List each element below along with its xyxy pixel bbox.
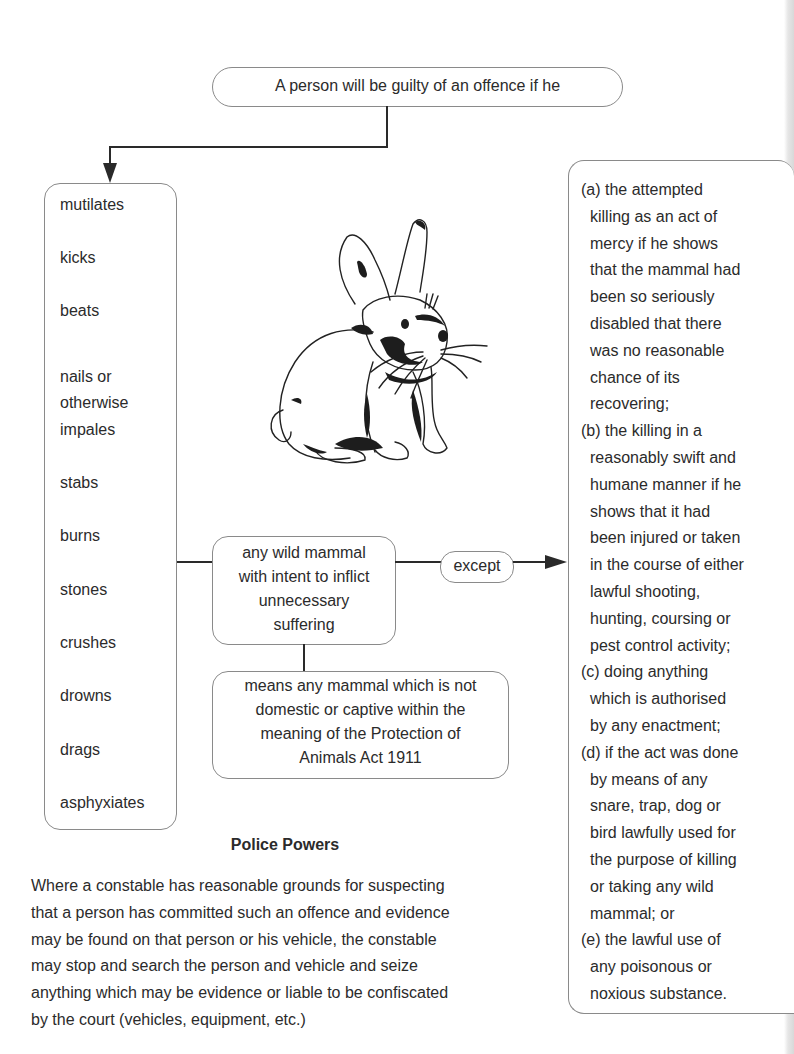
exception-line: (c) doing anything [581,659,793,686]
verb-item: mutilates [60,192,124,218]
verbs-list-box: mutilates kicks beats nails or otherwise… [44,183,177,830]
exception-line: hunting, coursing or [590,606,793,633]
definition-line: Animals Act 1911 [213,746,508,770]
definition-line: meaning of the Protection of [213,722,508,746]
connector-verbs-to-mammal [177,561,213,563]
exception-line: mercy if he shows [590,231,793,258]
exception-line: reasonably swift and [590,445,793,472]
top-statement-text: A person will be guilty of an offence if… [275,77,560,94]
verb-item: drags [60,737,100,763]
verb-item: kicks [60,245,96,271]
exception-line: been injured or taken [590,525,793,552]
exception-line: mammal; or [590,901,793,928]
definition-line: means any mammal which is not [213,674,508,698]
verb-item: stabs [60,470,98,496]
exception-line: (d) if the act was done [581,740,793,767]
connector-mammal-to-definition [303,644,305,672]
wild-mammal-line: any wild mammal [213,541,395,565]
exception-line: shows that it had [590,499,793,526]
exception-line: was no reasonable [590,338,793,365]
exception-line: by means of any [590,767,793,794]
verb-item: crushes [60,630,116,656]
exception-line: noxious substance. [590,981,793,1008]
exception-line: chance of its [590,365,793,392]
police-powers-line: may be found on that person or his vehic… [31,927,561,954]
exception-line: in the course of either [590,552,793,579]
exceptions-list: (a) the attempted killing as an act of m… [581,177,793,1008]
exception-line: (b) the killing in a [581,418,793,445]
verb-item: asphyxiates [60,790,145,816]
exception-line: lawful shooting, [590,579,793,606]
exception-line: (e) the lawful use of [581,927,793,954]
wild-mammal-line: unnecessary [213,589,395,613]
exception-line: been so seriously [590,284,793,311]
police-powers-text: Where a constable has reasonable grounds… [31,873,561,1034]
verb-item: otherwise [60,390,128,416]
police-powers-line: that a person has committed such an offe… [31,900,561,927]
police-powers-title: Police Powers [200,834,370,856]
verb-item: drowns [60,683,112,709]
wild-mammal-box: any wild mammal with intent to inflict u… [212,536,396,645]
exception-line: recovering; [590,391,793,418]
exception-line: or taking any wild [590,874,793,901]
arrow-right-icon [545,555,567,569]
except-label-box: except [440,551,514,583]
verb-item: beats [60,298,99,324]
definition-line: domestic or captive within the [213,698,508,722]
exception-line: that the mammal had [590,257,793,284]
arrow-down-icon [103,163,117,183]
exception-line: killing as an act of [590,204,793,231]
exception-b: (b) the killing in a reasonably swift an… [581,418,793,659]
police-powers-line: Where a constable has reasonable grounds… [31,873,561,900]
exception-c: (c) doing anything which is authorised b… [581,659,793,739]
exception-line: any poisonous or [590,954,793,981]
verb-item: burns [60,523,100,549]
rabbit-illustration [255,212,495,472]
exception-e: (e) the lawful use of any poisonous or n… [581,927,793,1007]
wild-mammal-line: suffering [213,613,395,637]
exception-line: (a) the attempted [581,177,793,204]
exception-line: snare, trap, dog or [590,793,793,820]
police-powers-line: may stop and search the person and vehic… [31,953,561,980]
connector-mammal-to-except [395,561,441,563]
connector-top-horizontal [109,146,388,148]
definition-box: means any mammal which is not domestic o… [212,671,509,779]
exception-line: disabled that there [590,311,793,338]
verb-item: nails or [60,364,112,390]
police-powers-line: anything which may be evidence or liable… [31,980,561,1007]
exception-a: (a) the attempted killing as an act of m… [581,177,793,418]
exception-d: (d) if the act was done by means of any … [581,740,793,928]
exception-line: pest control activity; [590,633,793,660]
except-label: except [453,557,500,574]
top-statement-box: A person will be guilty of an offence if… [212,67,623,107]
connector-except-to-exceptions [513,561,549,563]
exceptions-box: (a) the attempted killing as an act of m… [568,160,794,1014]
exception-line: humane manner if he [590,472,793,499]
verb-item: impales [60,417,115,443]
connector-top-vertical [386,106,388,148]
exception-line: the purpose of killing [590,847,793,874]
wild-mammal-line: with intent to inflict [213,565,395,589]
exception-line: which is authorised [590,686,793,713]
exception-line: by any enactment; [590,713,793,740]
verb-item: stones [60,577,107,603]
exception-line: bird lawfully used for [590,820,793,847]
police-powers-line: by the court (vehicles, equipment, etc.) [31,1007,561,1034]
